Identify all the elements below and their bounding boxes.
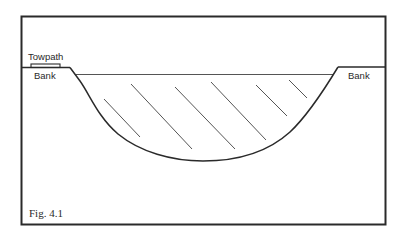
figure-frame bbox=[22, 17, 386, 225]
canal-cross-section-diagram: Towpath Bank Bank Fig. 4.1 bbox=[0, 0, 406, 244]
towpath-label: Towpath bbox=[28, 52, 63, 62]
water-hatching bbox=[104, 80, 307, 149]
channel-profile bbox=[70, 67, 338, 161]
figure-caption: Fig. 4.1 bbox=[29, 208, 63, 219]
left-bank-label: Bank bbox=[34, 71, 56, 81]
right-bank-label: Bank bbox=[348, 71, 370, 81]
towpath bbox=[31, 64, 60, 68]
